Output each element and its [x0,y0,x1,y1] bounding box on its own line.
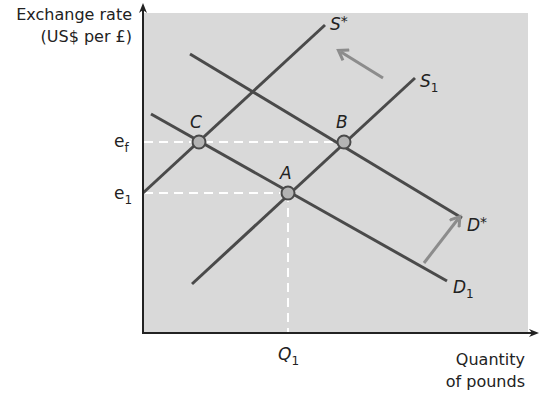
point-b-label: B [336,112,348,132]
x-axis-title-line1: Quantity [456,350,525,369]
point-a [282,187,295,200]
point-c [193,136,206,149]
y-axis-title-line2: (US$ per £) [41,27,132,46]
q1-tick-label: Q1 [278,344,299,368]
exchange-rate-diagram: C B A S* S1 D* D1 ef e1 Q1 Exchange rate… [0,0,540,396]
point-b [338,136,351,149]
ef-tick-label: ef [114,131,129,155]
e1-tick-label: e1 [114,183,132,207]
x-axis-title-line2: of pounds [446,372,525,391]
point-c-label: C [190,112,202,132]
point-a-label: A [279,163,292,183]
y-axis-title-line1: Exchange rate [16,5,132,24]
